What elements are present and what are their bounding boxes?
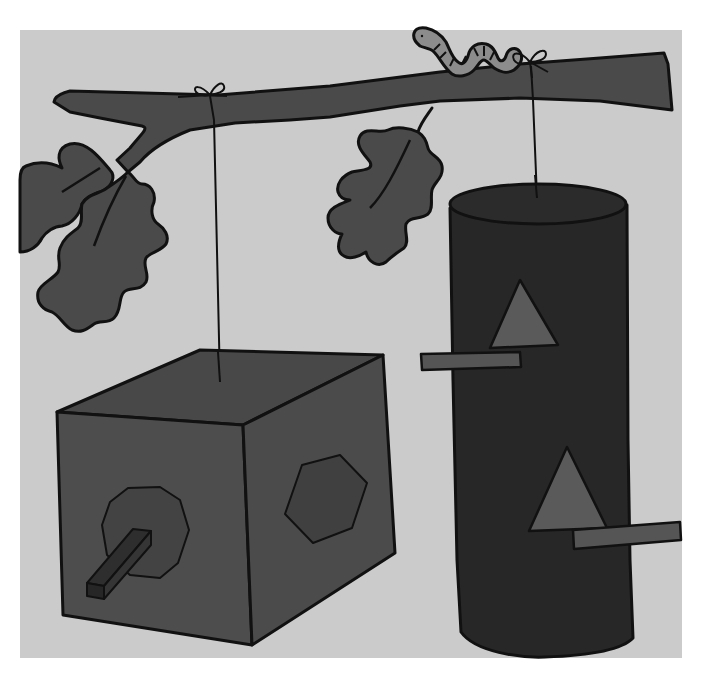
illustration	[0, 0, 702, 674]
perch-upper	[421, 352, 521, 370]
cylinder-body	[450, 205, 633, 657]
worm-eye	[421, 35, 423, 37]
cylinder-top	[450, 184, 626, 224]
